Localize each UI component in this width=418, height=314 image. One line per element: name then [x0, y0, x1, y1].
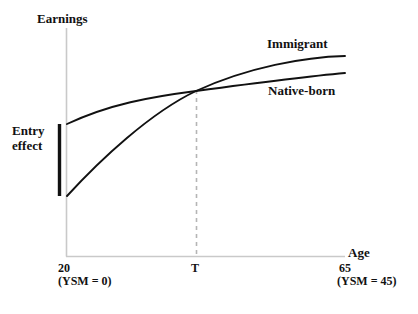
entry-effect-label-line1: Entry	[12, 124, 45, 139]
x-tick-left: 20 (YSM = 0)	[58, 262, 112, 289]
x-tick-left-value: 20	[58, 262, 112, 275]
entry-effect-label-line2: effect	[12, 139, 45, 154]
series-label-immigrant: Immigrant	[267, 37, 328, 52]
entry-effect-label: Entry effect	[12, 124, 45, 153]
y-axis-label: Earnings	[37, 12, 88, 27]
x-tick-left-sublabel: (YSM = 0)	[58, 275, 112, 288]
x-tick-middle: T	[191, 262, 199, 275]
x-tick-right: 65 (YSM = 45)	[337, 262, 397, 289]
x-axis-label: Age	[348, 246, 370, 261]
earnings-age-profile-figure: Earnings Age Immigrant Native-born Entry…	[0, 0, 418, 314]
x-tick-right-value: 65	[339, 262, 397, 275]
x-tick-right-sublabel: (YSM = 45)	[337, 275, 397, 288]
series-label-native-born: Native-born	[268, 84, 335, 99]
